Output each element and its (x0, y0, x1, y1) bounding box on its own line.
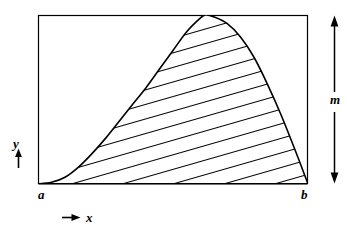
label-y-axis: y (13, 137, 19, 150)
arrow-up-icon (15, 149, 22, 169)
figure-area-under-curve: a b y x m (0, 0, 347, 241)
label-x-axis: x (86, 211, 93, 224)
arrow-right-icon (62, 214, 81, 221)
label-lower-bound-a: a (38, 188, 45, 201)
label-upper-bound-b: b (301, 188, 308, 201)
label-height-measure-m: m (330, 93, 340, 106)
plot-svg (0, 0, 347, 241)
